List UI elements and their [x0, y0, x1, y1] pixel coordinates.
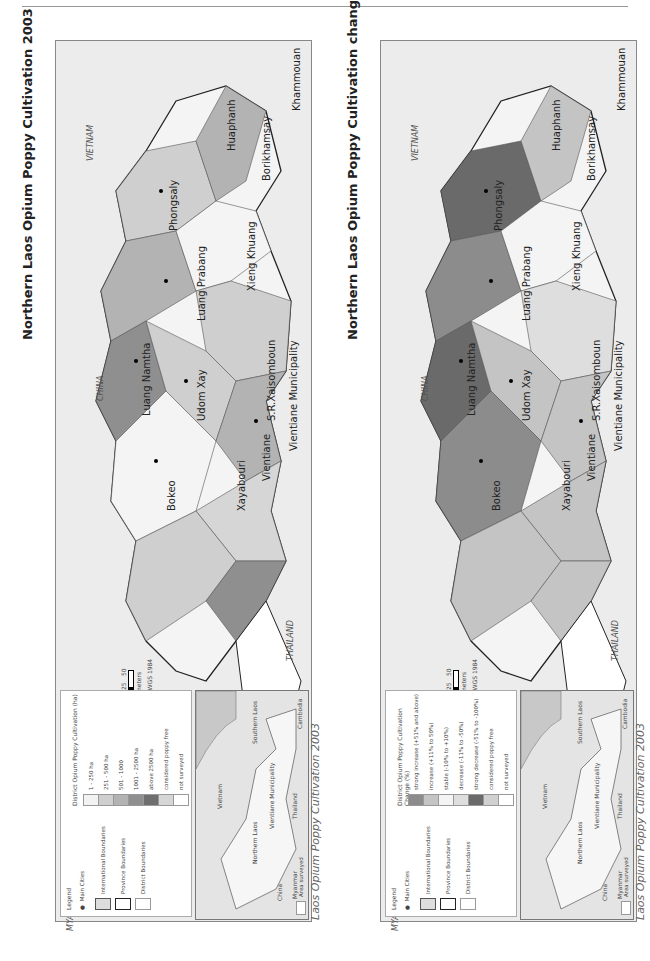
province-label: Vientiane — [261, 434, 272, 481]
legend-swatch — [143, 794, 159, 806]
province-boundary-swatch — [440, 898, 456, 910]
legend-label: 1 - 250 ha — [88, 762, 94, 790]
city-dot-icon: ● — [404, 905, 410, 910]
legend-class-title: District Opium Poppy Cultivation (ha) — [71, 694, 78, 806]
legend-label: strong increase (+51% and above) — [413, 694, 419, 790]
country-label: VIETNAM — [86, 125, 95, 161]
country-label: THAILAND — [611, 620, 620, 661]
inset-label: China — [276, 884, 283, 901]
country-label: VIETNAM — [411, 125, 420, 161]
province-label: Huaphanh — [226, 100, 237, 151]
inset-label: Vientiane Municipality — [593, 763, 600, 829]
legend-title: Legend — [390, 888, 397, 910]
source-credit: Source: LCDC – UNODC Laos Opium Poppy Cu… — [634, 600, 648, 920]
province-label: Huaphanh — [551, 100, 562, 151]
province-label: Vientiane Municipality — [613, 340, 624, 451]
intl-boundary-swatch — [95, 898, 111, 910]
legend-swatch — [128, 794, 144, 806]
province-label: S.R.Xaisomboun — [266, 340, 277, 421]
inset-label: Thailand — [616, 793, 623, 819]
country-label: THAILAND — [286, 620, 295, 661]
province-label: Bokeo — [491, 480, 502, 511]
province-label: Khammouan — [616, 48, 627, 111]
province-label: Vientiane Municipality — [288, 340, 299, 451]
scale-tick: 50 — [445, 668, 452, 676]
panel-cultivation-2003: Northern Laos Opium Poppy Cultivation 20… — [0, 0, 325, 961]
legend-label: District Boundaries — [465, 841, 471, 894]
legend-swatch — [468, 794, 484, 806]
inset-label: Northern Laos — [576, 822, 583, 864]
legend-label: considered poppy free — [163, 728, 169, 790]
legend-label: decrease (-11% to -50%) — [458, 721, 464, 790]
province-label: Phongsaly — [493, 180, 504, 231]
legend-label: Main Cities — [404, 871, 410, 901]
province-label: Vientiane — [586, 434, 597, 481]
legend-swatch — [158, 794, 174, 806]
province-label: Xayabouri — [236, 460, 247, 511]
legend-label: Province Boundaries — [120, 838, 126, 894]
inset-map: China Myanmar Vietnam Northern Laos Vien… — [195, 690, 309, 920]
legend-label: 1001 - 2500 ha — [133, 748, 139, 790]
map-title: Northern Laos Opium Poppy Cultivation ch… — [345, 40, 365, 340]
legend-swatch — [498, 794, 514, 806]
province-label: Xieng Khuang — [571, 221, 582, 291]
legend-swatch — [83, 794, 99, 806]
legend-label: not surveyed — [178, 754, 184, 790]
scale-tick: 25 — [120, 682, 127, 690]
province-label: Luang Namtha — [466, 343, 477, 416]
legend-swatch — [453, 794, 469, 806]
source-publication: Laos Opium Poppy Cultivation 2003 — [634, 723, 647, 920]
province-label: Khammouan — [291, 48, 302, 111]
legend-label: considered poppy free — [488, 728, 494, 790]
area-surveyed-swatch — [296, 901, 306, 915]
province-label: Borikhamsay — [586, 116, 597, 181]
inset-legend-label: Area surveyed — [623, 857, 629, 897]
country-label: CHINA — [421, 376, 430, 401]
inset-legend-label: Area surveyed — [298, 857, 304, 897]
legend-label: International Boundaries — [425, 826, 431, 894]
province-label: Bokeo — [166, 480, 177, 511]
district-boundary-swatch — [460, 898, 476, 910]
legend-title: Legend — [65, 888, 72, 910]
inset-label: Cambodia — [621, 699, 628, 729]
province-label: Phongsaly — [168, 180, 179, 231]
legend: Legend ●Main Cities International Bounda… — [385, 690, 517, 917]
map-title: Northern Laos Opium Poppy Cultivation 20… — [20, 40, 40, 340]
legend-swatch — [483, 794, 499, 806]
inset-label: Vietnam — [541, 784, 548, 809]
province-label: Udom Xay — [521, 369, 532, 421]
legend-swatch — [408, 794, 424, 806]
legend-label: strong decrease (-51% to -100%) — [473, 699, 479, 790]
inset-label: Southern Laos — [251, 701, 258, 744]
legend-label: District Boundaries — [140, 841, 146, 894]
map-title-text: Northern Laos Opium Poppy Cultivation ch… — [345, 0, 360, 340]
legend-swatch — [98, 794, 114, 806]
legend-label: 251 - 500 ha — [103, 755, 109, 790]
source-credit: Source: LCDC – UNODC Laos Opium Poppy Cu… — [309, 600, 323, 920]
province-label: Xayabouri — [561, 460, 572, 511]
inset-label: Thailand — [291, 793, 298, 819]
legend-label: 501 - 1000 — [118, 760, 124, 790]
legend-label: above 2500 ha — [148, 749, 154, 790]
province-label: S.R.Xaisomboun — [591, 340, 602, 421]
source-publication: Laos Opium Poppy Cultivation 2003 — [309, 723, 322, 920]
legend-swatch — [173, 794, 189, 806]
province-label: Luang Namtha — [141, 343, 152, 416]
legend-label: not surveyed — [503, 754, 509, 790]
inset-label: Northern Laos — [251, 822, 258, 864]
panel-change-2002-2003: Northern Laos Opium Poppy Cultivation ch… — [325, 0, 650, 961]
area-surveyed-swatch — [621, 901, 631, 915]
inset-map: China Myanmar Vietnam Northern Laos Vien… — [520, 690, 634, 920]
province-label: Borikhamsay — [261, 116, 272, 181]
inset-label: China — [601, 884, 608, 901]
inset-label: Vietnam — [216, 784, 223, 809]
legend-swatch — [113, 794, 129, 806]
legend-swatch — [423, 794, 439, 806]
province-label: Luang Prabang — [196, 246, 207, 321]
district-boundary-swatch — [135, 898, 151, 910]
legend-label: Province Boundaries — [445, 838, 451, 894]
province-label: Udom Xay — [196, 369, 207, 421]
legend-label: increase (+11% to 50%) — [428, 723, 434, 790]
inset-label: Cambodia — [296, 699, 303, 729]
legend-label: International Boundaries — [100, 826, 106, 894]
